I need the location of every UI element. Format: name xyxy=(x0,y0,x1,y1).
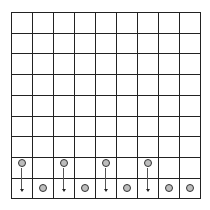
circle-piece-icon[interactable] xyxy=(81,184,89,192)
grid-cell-r1-c6[interactable] xyxy=(137,33,158,54)
game-board-grid xyxy=(11,12,200,198)
grid-line-horizontal xyxy=(11,74,201,75)
grid-cell-r5-c1[interactable] xyxy=(32,116,53,137)
circle-piece-icon[interactable] xyxy=(165,184,173,192)
grid-cell-r0-c6[interactable] xyxy=(137,12,158,33)
grid-cell-r2-c1[interactable] xyxy=(32,53,53,74)
grid-cell-r1-c3[interactable] xyxy=(74,33,95,54)
grid-cell-r3-c4[interactable] xyxy=(95,74,116,95)
grid-cell-r6-c4[interactable] xyxy=(95,136,116,157)
grid-cell-r3-c1[interactable] xyxy=(32,74,53,95)
circle-piece-icon[interactable] xyxy=(186,184,194,192)
grid-cell-r3-c5[interactable] xyxy=(116,74,137,95)
grid-line-horizontal xyxy=(11,95,201,96)
grid-cell-r6-c2[interactable] xyxy=(53,136,74,157)
grid-cell-r5-c7[interactable] xyxy=(158,116,179,137)
grid-cell-r0-c7[interactable] xyxy=(158,12,179,33)
grid-line-vertical xyxy=(179,12,180,199)
grid-cell-r5-c0[interactable] xyxy=(11,116,32,137)
grid-cell-r5-c3[interactable] xyxy=(74,116,95,137)
arrow-down-icon xyxy=(63,168,64,189)
grid-cell-r4-c1[interactable] xyxy=(32,95,53,116)
grid-line-vertical xyxy=(200,12,201,199)
grid-cell-r1-c0[interactable] xyxy=(11,33,32,54)
grid-cell-r5-c8[interactable] xyxy=(179,116,200,137)
grid-line-vertical xyxy=(32,12,33,199)
grid-cell-r6-c5[interactable] xyxy=(116,136,137,157)
grid-cell-r2-c4[interactable] xyxy=(95,53,116,74)
arrowhead-icon xyxy=(62,189,66,192)
grid-cell-r1-c1[interactable] xyxy=(32,33,53,54)
grid-cell-r0-c0[interactable] xyxy=(11,12,32,33)
grid-cell-r7-c8[interactable] xyxy=(179,157,200,178)
grid-line-horizontal xyxy=(11,116,201,117)
grid-line-horizontal xyxy=(11,33,201,34)
grid-cell-r7-c7[interactable] xyxy=(158,157,179,178)
grid-cell-r3-c6[interactable] xyxy=(137,74,158,95)
grid-cell-r0-c3[interactable] xyxy=(74,12,95,33)
grid-cell-r0-c4[interactable] xyxy=(95,12,116,33)
circle-piece-icon[interactable] xyxy=(123,184,131,192)
grid-cell-r6-c7[interactable] xyxy=(158,136,179,157)
arrowhead-icon xyxy=(20,189,24,192)
grid-cell-r5-c2[interactable] xyxy=(53,116,74,137)
grid-cell-r0-c2[interactable] xyxy=(53,12,74,33)
grid-cell-r2-c2[interactable] xyxy=(53,53,74,74)
arrowhead-icon xyxy=(146,189,150,192)
circle-piece-icon[interactable] xyxy=(39,184,47,192)
grid-cell-r2-c5[interactable] xyxy=(116,53,137,74)
circle-piece-icon[interactable] xyxy=(60,159,68,167)
grid-cell-r6-c1[interactable] xyxy=(32,136,53,157)
grid-cell-r1-c5[interactable] xyxy=(116,33,137,54)
grid-line-horizontal xyxy=(11,157,201,158)
arrowhead-icon xyxy=(104,189,108,192)
grid-cell-r7-c3[interactable] xyxy=(74,157,95,178)
grid-cell-r4-c2[interactable] xyxy=(53,95,74,116)
grid-cell-r5-c6[interactable] xyxy=(137,116,158,137)
grid-cell-r3-c7[interactable] xyxy=(158,74,179,95)
grid-cell-r0-c1[interactable] xyxy=(32,12,53,33)
grid-cell-r2-c7[interactable] xyxy=(158,53,179,74)
grid-cell-r7-c5[interactable] xyxy=(116,157,137,178)
grid-line-vertical xyxy=(116,12,117,199)
grid-line-vertical xyxy=(11,12,12,199)
grid-cell-r1-c2[interactable] xyxy=(53,33,74,54)
grid-cell-r4-c4[interactable] xyxy=(95,95,116,116)
grid-cell-r4-c8[interactable] xyxy=(179,95,200,116)
grid-cell-r3-c3[interactable] xyxy=(74,74,95,95)
grid-cell-r6-c6[interactable] xyxy=(137,136,158,157)
grid-cell-r2-c3[interactable] xyxy=(74,53,95,74)
grid-cell-r3-c2[interactable] xyxy=(53,74,74,95)
grid-cell-r2-c6[interactable] xyxy=(137,53,158,74)
grid-line-vertical xyxy=(53,12,54,199)
grid-cell-r6-c0[interactable] xyxy=(11,136,32,157)
grid-cell-r7-c1[interactable] xyxy=(32,157,53,178)
grid-cell-r0-c5[interactable] xyxy=(116,12,137,33)
grid-cell-r5-c5[interactable] xyxy=(116,116,137,137)
arrow-down-icon xyxy=(21,168,22,189)
grid-cell-r1-c8[interactable] xyxy=(179,33,200,54)
grid-cell-r6-c8[interactable] xyxy=(179,136,200,157)
grid-cell-r2-c0[interactable] xyxy=(11,53,32,74)
grid-line-horizontal xyxy=(11,178,201,179)
grid-line-horizontal xyxy=(11,198,201,199)
grid-cell-r0-c8[interactable] xyxy=(179,12,200,33)
grid-cell-r2-c8[interactable] xyxy=(179,53,200,74)
circle-piece-icon[interactable] xyxy=(144,159,152,167)
grid-cell-r4-c7[interactable] xyxy=(158,95,179,116)
grid-line-vertical xyxy=(137,12,138,199)
grid-cell-r6-c3[interactable] xyxy=(74,136,95,157)
grid-cell-r4-c5[interactable] xyxy=(116,95,137,116)
grid-line-horizontal xyxy=(11,12,201,13)
grid-cell-r5-c4[interactable] xyxy=(95,116,116,137)
grid-cell-r3-c8[interactable] xyxy=(179,74,200,95)
grid-line-vertical xyxy=(95,12,96,199)
circle-piece-icon[interactable] xyxy=(102,159,110,167)
circle-piece-icon[interactable] xyxy=(18,159,26,167)
grid-cell-r1-c4[interactable] xyxy=(95,33,116,54)
grid-cell-r3-c0[interactable] xyxy=(11,74,32,95)
grid-cell-r4-c3[interactable] xyxy=(74,95,95,116)
grid-cell-r4-c0[interactable] xyxy=(11,95,32,116)
grid-cell-r4-c6[interactable] xyxy=(137,95,158,116)
grid-cell-r1-c7[interactable] xyxy=(158,33,179,54)
